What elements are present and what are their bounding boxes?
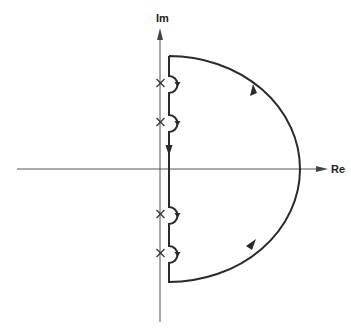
arrow-up-right-icon [246,239,256,250]
real-axis: Re [17,163,345,175]
arrow-down-icon [166,145,173,156]
arrow-down-icon [175,252,181,257]
arrow-up-left-icon [250,84,257,96]
real-axis-label: Re [331,163,345,175]
arrow-down-icon [175,213,181,218]
arrow-up-icon [157,28,163,40]
arrow-down-icon [175,121,181,126]
arrow-down-icon [175,82,181,87]
arrow-right-icon [316,166,328,172]
imaginary-axis-label: Im [156,12,169,24]
imaginary-axis: Im [156,12,169,322]
nyquist-contour-diagram: Im Re [0,0,351,335]
